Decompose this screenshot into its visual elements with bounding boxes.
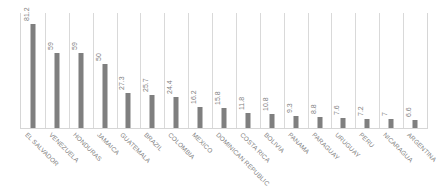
bar-column[interactable]: 7 (379, 13, 403, 128)
plot-area: 81.259595027.325.724.416.215.811.810.89.… (20, 13, 428, 129)
bar-value-label: 7.6 (333, 106, 340, 116)
bar-column[interactable]: 8.8 (308, 13, 332, 128)
category-label: PERU (358, 131, 376, 149)
category-label: BRAZIL (143, 131, 164, 152)
bar-column[interactable]: 25.7 (140, 13, 164, 128)
bar-column[interactable]: 59 (45, 13, 69, 128)
bar-value-label: 9.3 (286, 103, 293, 113)
category-label: MEXICO (191, 131, 214, 154)
bar[interactable] (293, 116, 298, 128)
bar[interactable] (78, 53, 83, 128)
bar-column[interactable]: 6.6 (403, 13, 427, 128)
bar-column[interactable]: 7.6 (331, 13, 355, 128)
bar-value-label: 7.2 (357, 106, 364, 116)
bar[interactable] (102, 64, 107, 128)
bar[interactable] (221, 108, 226, 128)
bar-value-label: 10.8 (262, 98, 269, 112)
bar-column[interactable]: 27.3 (117, 13, 141, 128)
category-label: JAMAICA (96, 131, 121, 156)
bar-column[interactable]: 59 (69, 13, 93, 128)
bar-value-label: 6.6 (405, 107, 412, 117)
category-axis-labels: EL SALVADORVENEZUELAHONDURASJAMAICAGUATE… (20, 131, 428, 195)
bar-column[interactable]: 7.2 (355, 13, 379, 128)
bar-value-label: 27.3 (118, 77, 125, 91)
bar-column[interactable]: 10.8 (260, 13, 284, 128)
bar[interactable] (389, 119, 394, 128)
bar-value-label: 50 (95, 53, 102, 61)
bar-column[interactable]: 16.2 (188, 13, 212, 128)
bar-value-label: 81.2 (23, 8, 30, 22)
bar-column[interactable]: 50 (93, 13, 117, 128)
bar[interactable] (317, 117, 322, 128)
bar-chart: 81.259595027.325.724.416.215.811.810.89.… (0, 0, 440, 195)
bar[interactable] (365, 119, 370, 128)
bar[interactable] (174, 97, 179, 128)
bar-value-label: 59 (71, 42, 78, 50)
bar[interactable] (198, 107, 203, 128)
bar[interactable] (150, 95, 155, 128)
bar-value-label: 11.8 (238, 97, 245, 110)
bar[interactable] (269, 114, 274, 128)
bar[interactable] (341, 118, 346, 128)
bar-value-label: 8.8 (310, 104, 317, 114)
bar-column[interactable]: 24.4 (164, 13, 188, 128)
bar-value-label: 7 (381, 112, 388, 116)
bar-value-label: 25.7 (142, 79, 149, 93)
bar[interactable] (30, 24, 35, 128)
bar-value-label: 59 (47, 42, 54, 50)
bar-column[interactable]: 15.8 (212, 13, 236, 128)
bar-value-label: 15.8 (214, 91, 221, 105)
bar-column[interactable]: 9.3 (284, 13, 308, 128)
bar[interactable] (126, 93, 131, 128)
bar[interactable] (413, 120, 418, 128)
bar-value-label: 16.2 (190, 91, 197, 105)
bar[interactable] (245, 113, 250, 128)
bar-column[interactable]: 11.8 (236, 13, 260, 128)
bar-value-label: 24.4 (166, 80, 173, 94)
category-label: PANAMA (287, 131, 311, 155)
category-label: BOLIVIA (263, 131, 286, 154)
bar[interactable] (54, 53, 59, 128)
bar-column[interactable]: 81.2 (21, 13, 45, 128)
